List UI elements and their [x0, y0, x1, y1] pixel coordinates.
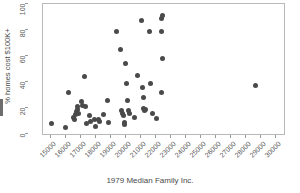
y-tick-label: 40: [20, 81, 27, 89]
data-point: [140, 85, 145, 90]
x-axis-title: 1979 Median Family Inc.: [0, 176, 300, 186]
data-point: [72, 117, 77, 122]
data-point: [139, 18, 144, 23]
data-point: [105, 98, 110, 103]
x-tick-mark: [260, 135, 261, 138]
data-point: [148, 81, 153, 86]
x-tick-mark: [245, 135, 246, 138]
data-point: [150, 111, 155, 116]
y-tick-label: 0: [20, 133, 27, 137]
x-tick-mark: [230, 135, 231, 138]
data-point: [124, 81, 129, 86]
y-tick-label: 80: [20, 29, 27, 37]
data-point: [141, 95, 146, 100]
data-point: [121, 113, 126, 118]
data-point: [154, 116, 159, 121]
data-point: [106, 120, 111, 125]
data-point: [147, 29, 152, 34]
x-tick-mark: [185, 135, 186, 138]
x-tick-mark: [275, 135, 276, 138]
data-point: [101, 112, 106, 117]
x-tick-mark: [125, 135, 126, 138]
data-point: [127, 111, 132, 116]
y-tick-label: 60: [20, 55, 27, 63]
data-point: [83, 104, 88, 109]
plot-area: [42, 3, 285, 135]
data-point: [49, 121, 54, 126]
data-point: [135, 73, 140, 78]
data-point: [76, 111, 81, 116]
data-point: [125, 98, 130, 103]
y-tick-label: 20: [20, 107, 27, 115]
x-tick-mark: [50, 135, 51, 138]
data-point: [253, 83, 258, 88]
scatter-chart-figure: % homes cost $100K+ 020406080100 1500016…: [0, 0, 300, 193]
data-point: [160, 13, 165, 18]
x-tick-mark: [155, 135, 156, 138]
x-tick-mark: [110, 135, 111, 138]
data-point: [159, 29, 164, 34]
data-point: [66, 90, 71, 95]
data-point: [82, 74, 87, 79]
x-tick-mark: [200, 135, 201, 138]
data-point: [159, 90, 164, 95]
x-tick-mark: [95, 135, 96, 138]
y-tick-label: 100: [20, 3, 27, 15]
x-tick-mark: [215, 135, 216, 138]
x-tick-mark: [80, 135, 81, 138]
x-tick-mark: [65, 135, 66, 138]
data-point: [97, 119, 102, 124]
data-point: [114, 29, 119, 34]
data-point: [93, 124, 98, 129]
data-point: [63, 125, 68, 130]
data-point: [132, 115, 137, 120]
x-tick-mark: [140, 135, 141, 138]
data-point: [122, 122, 127, 127]
data-point: [118, 47, 123, 52]
y-axis: 020406080100: [0, 0, 42, 138]
x-axis: 1500016000170001800019000200002100022000…: [42, 135, 286, 181]
data-point: [160, 56, 165, 61]
data-point: [123, 61, 128, 66]
x-tick-mark: [170, 135, 171, 138]
data-point: [143, 107, 148, 112]
